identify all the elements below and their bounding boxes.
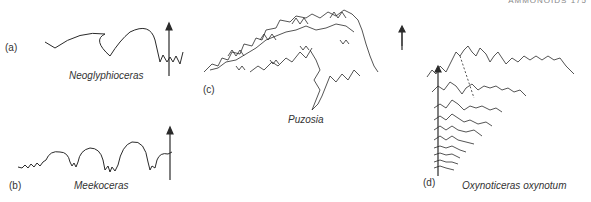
panel-c-species: Puzosia [288, 114, 324, 125]
arrow-icon [435, 66, 441, 176]
panel-d-species: Oxynoticeras oxynotum [462, 180, 567, 191]
arrow-icon [166, 23, 172, 76]
suture-diagrams [0, 0, 591, 202]
suture-d-oxynoticeras [427, 46, 574, 170]
panel-a-label: (a) [5, 42, 17, 53]
panel-b-species: Meekoceras [74, 180, 128, 191]
panel-a-species: Neoglyphioceras [69, 70, 144, 81]
suture-b-meekoceras [18, 142, 172, 172]
panel-c-label: (c) [203, 84, 215, 95]
suture-c-puzosia [204, 10, 378, 110]
panel-b-label: (b) [9, 180, 21, 191]
suture-a-neoglyphioceras [45, 28, 183, 64]
panel-d-label: (d) [423, 177, 435, 188]
